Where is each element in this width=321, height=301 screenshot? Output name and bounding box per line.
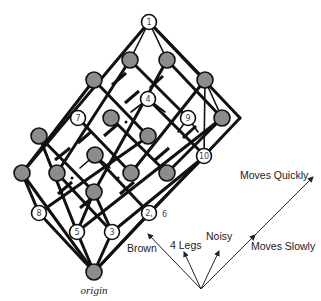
node-grey <box>140 128 156 144</box>
arrow-4-legs <box>184 252 201 289</box>
node-grey <box>49 165 65 181</box>
origin-label: origin <box>81 284 108 296</box>
node-grey <box>214 110 230 126</box>
node-1-label: 1 <box>146 18 151 27</box>
node-grey <box>14 165 30 181</box>
node-3-label: 3 <box>109 228 114 237</box>
node-4-label: 4 <box>145 95 150 104</box>
node-grey <box>197 72 213 88</box>
node-10-label: 10 <box>199 152 209 161</box>
node-grey <box>31 128 47 144</box>
axis-arrows: Brown 4 Legs Noisy Moves Slowly Moves Qu… <box>127 169 316 289</box>
node-grey <box>122 52 138 68</box>
node-grey <box>123 165 139 181</box>
node-grey <box>87 147 103 163</box>
node-8-label: 8 <box>36 209 41 218</box>
node-grey <box>103 110 119 126</box>
node-7-label: 7 <box>75 114 80 123</box>
arrow-moves-slowly <box>201 235 255 289</box>
node-grey <box>86 184 102 200</box>
node-6-label: 6 <box>162 210 167 219</box>
node-2-label: 2, <box>145 209 153 218</box>
axis-label-moves-quickly: Moves Quickly <box>240 169 309 181</box>
lattice-diagram: 1 4 7 9 10 8 2, 6 5 3 origin Brown 4 Leg… <box>0 0 321 301</box>
arrow-noisy <box>201 251 219 289</box>
axis-label-4-legs: 4 Legs <box>170 239 202 251</box>
axis-label-brown: Brown <box>127 242 157 254</box>
origin-node <box>86 264 102 280</box>
arrow-moves-quickly <box>255 177 313 235</box>
node-9-label: 9 <box>185 114 190 123</box>
axis-label-noisy: Noisy <box>206 230 233 242</box>
node-grey <box>86 72 102 88</box>
node-grey <box>159 52 175 68</box>
node-grey <box>159 165 175 181</box>
axis-label-moves-slowly: Moves Slowly <box>251 240 316 252</box>
node-5-label: 5 <box>74 228 79 237</box>
